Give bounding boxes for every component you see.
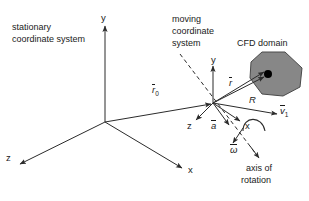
stationary-x-axis-label: x: [188, 164, 193, 175]
stationary-z-axis: [20, 122, 105, 164]
a-vector-symbol: a: [211, 120, 216, 131]
r-vector: [213, 72, 264, 103]
omega-vector-symbol: ω: [230, 144, 237, 155]
v1-vector: [213, 103, 277, 114]
stationary-y-axis-label: y: [101, 12, 106, 23]
cfd-domain-caption: CFD domain: [237, 38, 288, 49]
moving-z-axis-label: z: [187, 120, 192, 131]
a-vector-label: a: [211, 120, 216, 131]
domain-point-marker: [264, 70, 272, 78]
r-vector-symbol: r: [229, 77, 232, 88]
omega-vector: [233, 128, 243, 143]
r0-vector: [105, 104, 211, 122]
omega-vector-label: ω: [230, 144, 237, 155]
axis-of-rotation-caption-line2: rotation: [241, 175, 271, 186]
R-vector: [213, 77, 264, 103]
stationary-caption-line1: stationary: [12, 22, 51, 33]
figure-canvas: stationary coordinate system moving coor…: [0, 0, 309, 201]
cfd-domain-polygon: [250, 52, 302, 96]
moving-x-axis-label: x: [245, 120, 250, 131]
r-vector-label: r: [229, 77, 232, 88]
R-vector-label: R: [249, 94, 256, 105]
stationary-z-axis-label: z: [6, 152, 11, 163]
moving-caption-line1: moving: [172, 14, 201, 25]
axis-of-rotation-caption-line1: axis of: [246, 163, 272, 174]
moving-caption-line3: system: [172, 38, 201, 49]
moving-caption-line2: coordinate: [172, 26, 214, 37]
stationary-caption-line2: coordinate system: [12, 34, 85, 45]
stationary-x-axis: [105, 122, 182, 168]
v1-vector-label: v1: [280, 105, 288, 120]
r0-vector-subscript: 0: [155, 90, 159, 97]
r0-vector-label: r0: [152, 84, 159, 99]
v1-vector-subscript: 1: [285, 111, 289, 118]
moving-y-axis-label: y: [211, 54, 216, 65]
axis-of-rotation-arrowhead: [250, 146, 259, 158]
